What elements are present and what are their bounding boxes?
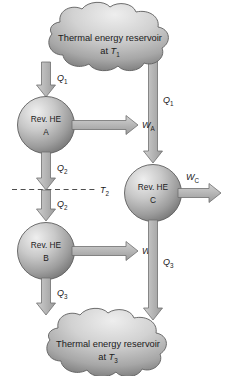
bottom-reservoir-subscript: 3 [114, 357, 118, 364]
heat-flow-q1-left-label: Q1 [57, 73, 68, 85]
q2-lower-symbol: Q [57, 199, 64, 209]
top-thermal-reservoir: Thermal energy reservoir at T1 [49, 2, 169, 70]
heat-flow-q2-upper-arrow [37, 152, 56, 190]
q1-left-symbol: Q [57, 73, 64, 83]
thermodynamics-diagram: Thermal energy reservoir at T1 Q1 Rev. H… [0, 0, 225, 376]
engine-c-sphere [125, 165, 182, 222]
engine-a: Rev. HE A [18, 97, 75, 154]
engine-b: Rev. HE B [18, 223, 75, 280]
heat-flow-q3-right-label: Q3 [163, 257, 174, 269]
engine-c: Rev. HE C [125, 165, 182, 222]
diagram-canvas: Thermal energy reservoir at T1 Q1 Rev. H… [0, 0, 225, 376]
engine-c-line1: Rev. HE [138, 182, 169, 192]
q3-right-subscript: 3 [170, 262, 174, 269]
work-output-wb-arrow [72, 242, 138, 261]
q1-left-subscript: 1 [64, 78, 68, 85]
heat-flow-q1-right-label: Q1 [163, 95, 174, 107]
q1-right-subscript: 1 [170, 100, 174, 107]
heat-flow-q1-left-arrow [37, 62, 56, 97]
q1-right-symbol: Q [163, 95, 170, 105]
q2-upper-symbol: Q [57, 163, 64, 173]
engine-b-line1: Rev. HE [31, 240, 62, 250]
intermediate-temperature-label: T2 [100, 185, 110, 197]
q2-upper-subscript: 2 [64, 168, 68, 175]
q3-left-symbol: Q [57, 288, 64, 298]
heat-flow-q2-lower-label: Q2 [57, 199, 68, 211]
top-reservoir-line1: Thermal energy reservoir [58, 33, 162, 43]
engine-a-line1: Rev. HE [31, 114, 62, 124]
q3-right-symbol: Q [163, 257, 170, 267]
engine-b-line2: B [43, 253, 49, 263]
engine-b-sphere [18, 223, 75, 280]
bottom-thermal-reservoir: Thermal energy reservoir at T3 [47, 308, 167, 376]
engine-c-line2: C [150, 195, 156, 205]
top-reservoir-at: at [100, 46, 110, 56]
q2-lower-subscript: 2 [64, 204, 68, 211]
work-output-wc-label: WC [186, 172, 200, 184]
work-output-wa-arrow [72, 116, 138, 135]
heat-flow-q2-upper-label: Q2 [57, 163, 68, 175]
engine-a-sphere [18, 97, 75, 154]
heat-flow-q3-left-arrow [37, 278, 56, 315]
engine-a-line2: A [43, 127, 49, 137]
bottom-reservoir-line1: Thermal energy reservoir [56, 339, 160, 349]
heat-flow-q2-lower-arrow [37, 190, 56, 221]
heat-flow-q3-right-arrow [144, 220, 163, 320]
t2-subscript: 2 [106, 190, 110, 197]
top-reservoir-subscript: 1 [116, 51, 120, 58]
heat-flow-q3-left-label: Q3 [57, 288, 68, 300]
work-output-wc-arrow [178, 184, 221, 203]
q3-left-subscript: 3 [64, 293, 68, 300]
bottom-reservoir-at: at [98, 352, 108, 362]
wc-subscript: C [195, 177, 200, 184]
